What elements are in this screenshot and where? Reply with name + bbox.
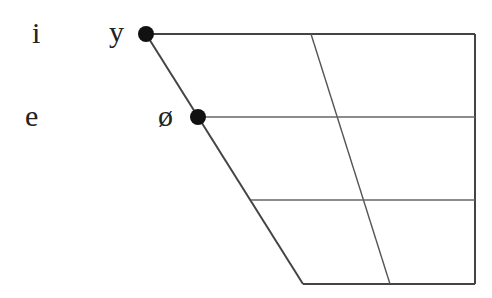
front-edge xyxy=(146,34,303,284)
point-oe xyxy=(190,109,206,125)
label-i: i xyxy=(32,18,40,48)
vowel-trapezoid xyxy=(0,0,492,298)
label-e: e xyxy=(25,101,38,131)
point-y xyxy=(138,26,154,42)
label-y: y xyxy=(109,17,124,47)
central-line xyxy=(311,34,390,284)
label-o-slash: ø xyxy=(158,101,173,131)
